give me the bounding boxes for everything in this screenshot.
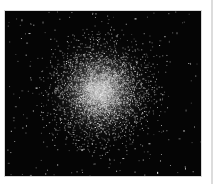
star-field — [5, 11, 201, 176]
cluster-image — [5, 11, 201, 176]
image-caption — [5, 178, 125, 184]
column-divider — [211, 0, 213, 184]
